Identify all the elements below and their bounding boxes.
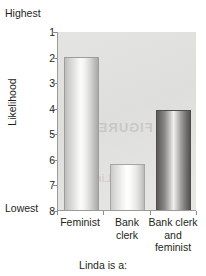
x-category-label: Feminist <box>49 216 111 229</box>
bar-chart-figure: Highest Lowest Likelihood 12345678 FIGUR… <box>0 0 206 276</box>
bar <box>156 110 191 210</box>
bar <box>110 164 145 210</box>
x-category-label-line: and <box>144 229 202 242</box>
x-tick-mark <box>57 211 58 215</box>
x-category-label: Bank clerkandfeminist <box>144 216 202 254</box>
x-tick-mark <box>103 211 104 215</box>
plot-area: FIGURE 9.2 Linda <box>57 32 196 211</box>
x-category-label-line: Feminist <box>49 216 111 229</box>
bar <box>64 57 99 210</box>
x-category-label-line: feminist <box>144 241 202 254</box>
x-category-label-line: Bank clerk <box>144 216 202 229</box>
x-axis-title: Linda is a: <box>0 259 206 271</box>
x-tick-mark <box>150 211 151 215</box>
x-tick-mark <box>196 211 197 215</box>
